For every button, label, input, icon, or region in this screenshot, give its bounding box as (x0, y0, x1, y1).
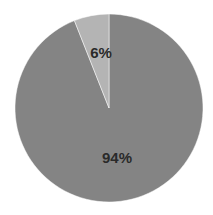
slice-label-large: 94% (102, 149, 132, 166)
pie-chart (0, 0, 213, 215)
slice-label-small: 6% (90, 44, 112, 61)
